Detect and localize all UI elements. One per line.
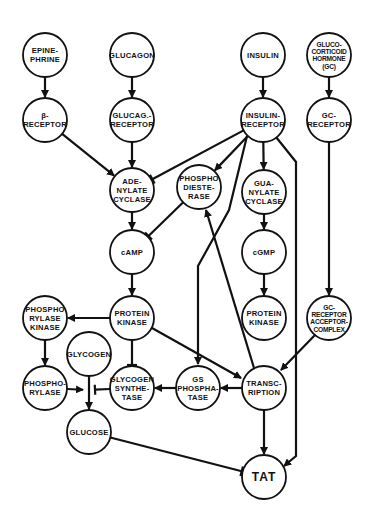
node-label: KINASE: [117, 318, 147, 327]
node-label: HORMONE: [312, 55, 346, 62]
node-label: PHOSPHO-: [24, 379, 66, 388]
node-insulin-receptor: INSULIN-RECEPTOR: [241, 98, 285, 142]
node-label: cAMP: [121, 248, 143, 257]
edge-transcription-to-phosphodiesterase: [206, 210, 254, 368]
edge-gc-receptor-acceptor-complex-to-transcription: [281, 335, 315, 370]
node-label: β-: [41, 111, 49, 120]
edge-glucose-to-tat: [110, 437, 243, 476]
node-label: RECEPTOR: [110, 120, 154, 129]
node-label: GLUCAG.-: [112, 111, 151, 120]
node-protein-kinase-a: PROTEINKINASE: [110, 296, 154, 340]
node-glucagon: GLUCAGON: [109, 33, 155, 77]
node-gc-receptor: GC-RECEPTOR: [307, 98, 351, 142]
node-label: PHOSPHO: [25, 305, 64, 314]
node-label: CYCLASE: [245, 197, 283, 206]
node-beta-receptor: β-RECEPTOR: [23, 98, 67, 142]
node-label: PHOSPHO: [179, 174, 218, 183]
node-label: CORTICOID: [311, 48, 347, 55]
node-label: GLYCOGEN: [110, 375, 154, 384]
node-label: TRANSC-: [246, 379, 282, 388]
node-label: RYLASE: [29, 388, 61, 397]
node-label: RIPTION: [248, 388, 280, 397]
node-label: NYLATE: [116, 186, 147, 195]
node-label: INSULIN-: [246, 111, 281, 120]
signaling-pathway-diagram: EPINE-PHRINEGLUCAGONINSULINGLUCO-CORTICO…: [0, 0, 371, 521]
node-phosphorylase: PHOSPHO-RYLASE: [23, 366, 67, 410]
node-glucose: GLUCOSE: [67, 410, 111, 454]
nodes-layer: EPINE-PHRINEGLUCAGONINSULINGLUCO-CORTICO…: [23, 33, 351, 499]
node-label: (GC): [322, 63, 335, 71]
node-insulin: INSULIN: [241, 33, 285, 77]
node-label: CYCLASE: [113, 195, 151, 204]
node-label: GLUCAGON: [109, 51, 155, 60]
node-gc-receptor-acceptor-complex: GC-RECEPTORACCEPTOR-COMPLEX: [307, 296, 351, 340]
node-label: COMPLEX: [313, 326, 345, 333]
edge-beta-receptor-to-adenylate-cyclase: [62, 134, 114, 176]
node-tat: TAT: [242, 455, 286, 499]
node-label: RECEPTOR: [307, 120, 351, 129]
node-glucocorticoid-hormone: GLUCO-CORTICOIDHORMONE(GC): [307, 33, 351, 77]
node-label: KINASE: [249, 318, 279, 327]
node-label: GLUCOSE: [70, 428, 109, 437]
node-label: PHRINE: [30, 55, 60, 64]
node-label: DIESTE-: [183, 183, 215, 192]
node-adenylate-cyclase: ADE-NYLATECYCLASE: [110, 168, 154, 212]
node-label: RECEPTOR: [312, 311, 347, 318]
node-label: GC-: [323, 304, 335, 311]
node-cgmp: cGMP: [242, 230, 286, 274]
node-protein-kinase-g: PROTEINKINASE: [242, 296, 286, 340]
node-label: PHOSPHA-: [177, 384, 219, 393]
node-phosphodiesterase: PHOSPHODIESTE-RASE: [177, 165, 221, 209]
node-label: PROTEIN: [114, 309, 149, 318]
node-glucagon-receptor: GLUCAG.-RECEPTOR: [110, 98, 154, 142]
node-label: INSULIN: [247, 51, 279, 60]
edge-phosphodiesterase-to-camp: [145, 202, 183, 239]
edge-protein-kinase-a-to-glycogen-synthetase: [127, 340, 137, 365]
node-camp: cAMP: [110, 230, 154, 274]
node-label: RYLASE: [29, 314, 61, 323]
node-label: GC-: [322, 111, 337, 120]
node-label: TASE: [122, 393, 143, 402]
node-glycogen: GLYCOGEN: [67, 332, 111, 376]
node-label: RECEPTOR: [241, 120, 285, 129]
node-label: TASE: [188, 393, 209, 402]
node-label: cGMP: [253, 248, 275, 257]
node-epinephrine: EPINE-PHRINE: [23, 33, 67, 77]
node-label: GS: [192, 375, 203, 384]
node-label: GLUCO-: [317, 41, 342, 48]
node-label: SYNTHE-: [115, 384, 150, 393]
node-guanylate-cyclase: GUA-NYLATECYCLASE: [242, 170, 286, 214]
node-label: TAT: [252, 470, 277, 484]
node-label: PROTEIN: [246, 309, 281, 318]
node-label: GLYCOGEN: [67, 350, 111, 359]
node-label: EPINE-: [32, 46, 59, 55]
node-label: ADE-: [122, 177, 142, 186]
node-gs-phosphatase: GSPHOSPHA-TASE: [176, 366, 220, 410]
node-label: GUA-: [254, 179, 274, 188]
node-phosphorylase-kinase: PHOSPHORYLASEKINASE: [23, 296, 67, 340]
node-label: RECEPTOR: [23, 120, 67, 129]
node-transcription: TRANSC-RIPTION: [242, 366, 286, 410]
node-label: RASE: [188, 192, 210, 201]
edge-glycogen-synthetase-to-glycogen-to-glucose: [95, 385, 110, 395]
edge-phosphorylase-to-glycogen-to-glucose: [67, 389, 83, 390]
node-label: NYLATE: [248, 188, 279, 197]
node-glycogen-synthetase: GLYCOGENSYNTHE-TASE: [110, 366, 154, 410]
node-label: KINASE: [30, 323, 60, 332]
node-label: ACCEPTOR-: [310, 318, 347, 325]
